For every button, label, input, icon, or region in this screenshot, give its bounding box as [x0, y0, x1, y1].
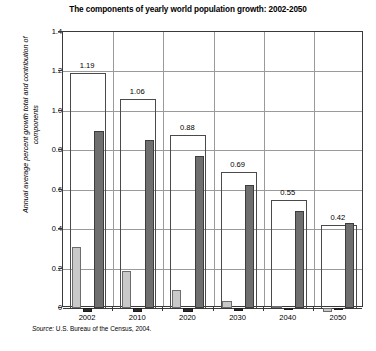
group-separator: [314, 32, 315, 306]
bar-mortality: [83, 308, 92, 312]
gridline: [63, 190, 362, 191]
bar-momentum: [195, 156, 204, 308]
bar-momentum: [345, 223, 354, 308]
source-text: U.S. Bureau of the Census, 2004.: [56, 325, 152, 332]
y-axis-tick-label: 0.2: [24, 263, 62, 272]
bar-mortality: [234, 308, 243, 311]
gridline: [63, 150, 362, 151]
bar-fertility: [122, 271, 131, 308]
bar-mortality: [183, 308, 192, 312]
y-axis-tick-mark: [58, 110, 62, 111]
y-axis-tick-mark: [58, 307, 62, 308]
gridline: [63, 71, 362, 72]
group-separator: [163, 32, 164, 306]
x-axis-tick-mark: [162, 307, 163, 311]
y-axis-tick-mark: [58, 31, 62, 32]
source-prefix: Source:: [32, 325, 54, 332]
bar-mortality: [133, 308, 142, 312]
y-axis-tick-mark: [58, 228, 62, 229]
group-separator: [214, 32, 215, 306]
source-note: Source: U.S. Bureau of the Census, 2004.: [32, 325, 151, 332]
gridline: [63, 269, 362, 270]
bar-fertility: [72, 247, 81, 308]
bar-mortality: [334, 308, 343, 310]
total-value-label: 0.55: [280, 188, 295, 197]
group-separator: [264, 32, 265, 306]
x-axis-tick-label: 2020: [179, 313, 196, 322]
chart-container: The components of yearly world populatio…: [0, 0, 376, 351]
bar-fertility: [222, 301, 231, 308]
x-axis-tick-mark: [313, 307, 314, 311]
x-axis-tick-label: 2002: [79, 313, 96, 322]
gridline: [63, 111, 362, 112]
bar-momentum: [245, 185, 254, 308]
bar-momentum: [94, 131, 103, 308]
x-axis-tick-label: 2050: [329, 313, 346, 322]
y-axis-tick-mark: [58, 149, 62, 150]
group-separator: [113, 32, 114, 306]
y-axis-tick-label: 0: [24, 303, 62, 312]
y-axis-title: Annual average percent growth total and …: [21, 20, 40, 230]
x-axis-tick-mark: [213, 307, 214, 311]
x-axis-tick-label: 2010: [129, 313, 146, 322]
bar-mortality: [284, 308, 293, 310]
y-axis-tick-mark: [58, 70, 62, 71]
bar-fertility: [272, 306, 281, 308]
y-axis-tick-mark: [58, 189, 62, 190]
x-axis-tick-mark: [263, 307, 264, 311]
total-value-label: 0.42: [331, 213, 346, 222]
bar-fertility: [323, 308, 332, 312]
plot-area: [62, 31, 363, 307]
gridline: [63, 229, 362, 230]
total-value-label: 0.88: [180, 123, 195, 132]
bar-momentum: [295, 211, 304, 308]
x-axis-tick-label: 2030: [229, 313, 246, 322]
y-axis-tick-mark: [58, 268, 62, 269]
bar-momentum: [145, 140, 154, 308]
total-value-label: 0.69: [230, 160, 245, 169]
bar-fertility: [172, 290, 181, 308]
total-value-label: 1.19: [80, 61, 95, 70]
total-value-label: 1.06: [130, 87, 145, 96]
x-axis-tick-label: 2040: [279, 313, 296, 322]
x-axis-tick-mark: [112, 307, 113, 311]
